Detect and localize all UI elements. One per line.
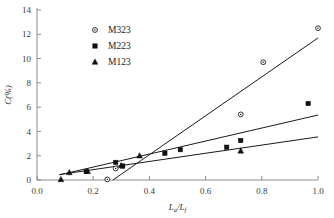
legend-label-m223: M223 xyxy=(108,41,131,51)
legend-marker-m323-center xyxy=(94,29,95,30)
data-point-m223 xyxy=(239,138,243,142)
data-point-m323-center xyxy=(263,62,264,63)
x-tick-label: 0.0 xyxy=(31,186,43,196)
data-point-m223 xyxy=(224,145,228,149)
y-tick-label: 2 xyxy=(27,151,32,161)
x-tick-label: 0.2 xyxy=(88,186,99,196)
data-point-m323-center xyxy=(115,168,116,169)
data-point-m123 xyxy=(58,176,64,181)
legend-label-m123: M123 xyxy=(108,57,131,67)
data-point-m223 xyxy=(163,151,167,155)
data-point-m223 xyxy=(178,147,182,151)
x-tick-label: 0.6 xyxy=(200,186,212,196)
y-tick-label: 0 xyxy=(27,175,32,185)
x-tick-label: 0.8 xyxy=(256,186,268,196)
legend-marker-m123 xyxy=(92,59,98,64)
x-axis-title: La/Lf xyxy=(168,202,188,213)
y-tick-label: 12 xyxy=(22,29,31,39)
chart-figure: 024681012140.00.20.40.60.81.0C(%)La/LfM3… xyxy=(0,0,334,218)
x-tick-label: 1.0 xyxy=(312,186,324,196)
y-tick-label: 4 xyxy=(27,127,32,137)
y-tick-label: 8 xyxy=(27,78,32,88)
x-tick-label: 0.4 xyxy=(144,186,156,196)
data-point-m123 xyxy=(137,153,143,158)
trendline-m123 xyxy=(59,137,318,175)
legend-label-m323: M323 xyxy=(108,25,131,35)
trendline-m323 xyxy=(113,38,318,180)
y-tick-label: 6 xyxy=(27,102,32,112)
y-tick-label: 10 xyxy=(22,54,32,64)
data-point-m323-center xyxy=(317,28,318,29)
legend-marker-m223 xyxy=(93,44,97,48)
axis-lines xyxy=(37,8,318,180)
y-axis-title: C(%) xyxy=(3,85,13,105)
data-point-m323-center xyxy=(107,179,108,180)
y-tick-label: 14 xyxy=(22,5,32,15)
data-point-m223 xyxy=(113,160,117,164)
data-point-m223 xyxy=(306,101,310,105)
scatter-plot: 024681012140.00.20.40.60.81.0C(%)La/LfM3… xyxy=(0,0,334,218)
data-point-m323-center xyxy=(240,114,241,115)
trendline-m223 xyxy=(59,115,318,175)
